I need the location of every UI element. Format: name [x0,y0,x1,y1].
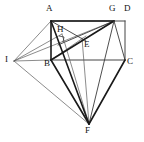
vertex-label-C: C [127,57,133,66]
edge-C-F [89,60,125,124]
vertex-label-B: B [44,59,50,68]
edge-B-F [51,60,89,124]
vertex-label-D: D [124,4,131,13]
geometry-figure: A G D H E I B C F [0,0,144,142]
vertex-label-H: H [57,25,64,34]
vertex-label-F: F [85,126,90,135]
edge-G-F [89,21,114,124]
edge-I-A [14,21,51,61]
edge-E-F [82,38,89,124]
edge-A-F [51,21,89,124]
vertex-label-E: E [84,40,90,49]
vertex-label-A: A [46,4,53,13]
edge-G-C [114,21,125,60]
vertex-label-G: G [109,4,116,13]
vertex-label-I: I [5,55,8,64]
geometry-canvas [0,0,144,142]
right-angle-at-H [59,36,64,42]
